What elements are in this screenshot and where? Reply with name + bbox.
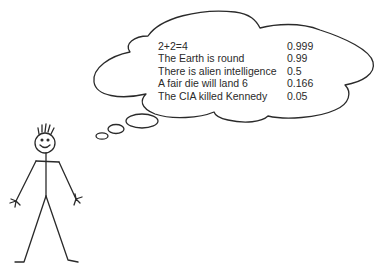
right-hand <box>74 194 82 205</box>
head <box>35 133 55 153</box>
belief-row: A fair die will land 6 0.166 <box>158 77 313 89</box>
thought-bubble-small <box>96 133 108 139</box>
shoulders <box>36 161 59 162</box>
thought-bubble-medium <box>108 125 124 134</box>
right-leg <box>46 196 78 262</box>
belief-probability: 0.999 <box>287 40 313 52</box>
belief-row: There is alien intelligence 0.5 <box>158 65 313 77</box>
belief-probability: 0.99 <box>287 52 307 64</box>
belief-statement: The Earth is round <box>158 52 287 64</box>
belief-statement: 2+2=4 <box>158 40 287 52</box>
belief-row: The CIA killed Kennedy 0.05 <box>158 90 313 102</box>
belief-list: 2+2=4 0.999 The Earth is round 0.99 Ther… <box>158 40 313 102</box>
left-hand <box>10 199 20 207</box>
thought-bubble-large <box>126 114 158 128</box>
smile <box>40 145 50 148</box>
right-arm <box>59 162 76 199</box>
stick-figure <box>10 124 82 262</box>
belief-statement: A fair die will land 6 <box>158 77 287 89</box>
belief-probability: 0.166 <box>287 77 313 89</box>
belief-row: 2+2=4 0.999 <box>158 40 313 52</box>
belief-probability: 0.05 <box>287 90 307 102</box>
belief-row: The Earth is round 0.99 <box>158 52 313 64</box>
left-arm <box>16 161 36 201</box>
belief-statement: The CIA killed Kennedy <box>158 90 287 102</box>
belief-probability: 0.5 <box>287 65 302 77</box>
illustration: 2+2=4 0.999 The Earth is round 0.99 Ther… <box>0 0 381 271</box>
belief-statement: There is alien intelligence <box>158 65 287 77</box>
left-leg <box>15 196 46 262</box>
